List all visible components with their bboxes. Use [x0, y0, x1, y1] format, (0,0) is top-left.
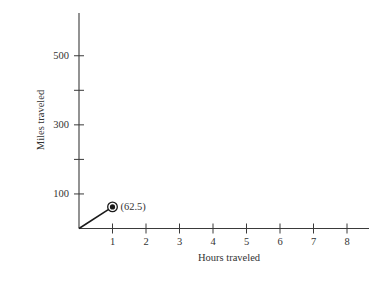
data-point-dot — [110, 204, 115, 209]
x-tick-label: 3 — [177, 236, 182, 247]
x-tick-label: 6 — [277, 236, 282, 247]
x-axis-label: Hours traveled — [198, 252, 261, 263]
y-tick-label: 300 — [53, 119, 69, 130]
x-tick-label: 5 — [244, 236, 249, 247]
data-line — [79, 207, 113, 229]
x-tick-label: 2 — [143, 236, 148, 247]
data-point-annotation: (62.5) — [121, 201, 147, 213]
y-axis-label: Miles traveled — [35, 89, 46, 150]
x-tick-label: 8 — [344, 236, 349, 247]
x-tick-label: 4 — [210, 236, 216, 247]
y-tick-label: 500 — [53, 50, 69, 61]
y-tick-label: 100 — [53, 188, 69, 199]
x-tick-label: 7 — [311, 236, 316, 247]
x-tick-label: 1 — [110, 236, 115, 247]
chart-canvas: 10030050012345678Hours traveledMiles tra… — [0, 0, 384, 281]
